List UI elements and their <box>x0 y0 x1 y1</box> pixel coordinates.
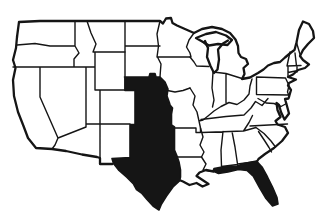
highlight-nebraska-kansas-oklahoma-texas <box>112 74 181 211</box>
outline-michigan-upper-peninsula <box>196 32 232 46</box>
outline-gulf-coast <box>181 170 214 187</box>
highlight-florida <box>213 161 278 206</box>
highlighted-states <box>112 74 278 211</box>
us-map <box>0 0 333 223</box>
us-map-svg <box>0 0 333 223</box>
outline-mexico-border-and-pacific-coast <box>13 37 113 164</box>
state-borders-south <box>175 99 288 167</box>
